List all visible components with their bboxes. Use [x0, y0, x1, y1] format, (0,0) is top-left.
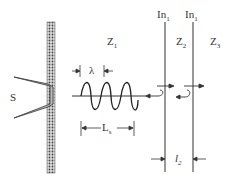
z2-label: Z2	[176, 36, 186, 50]
lambda-label: λ	[89, 65, 94, 76]
transmission-arrows	[146, 84, 204, 99]
in1-left-label: In1	[157, 9, 170, 23]
diagram-canvas	[0, 0, 233, 182]
in1-right-label: In1	[185, 9, 198, 23]
z1-label: Z1	[107, 36, 117, 50]
l2-label: l2	[175, 153, 182, 167]
z3-label: Z3	[210, 36, 220, 50]
ls-label: Ls	[102, 122, 111, 136]
source-label: S	[10, 92, 16, 103]
